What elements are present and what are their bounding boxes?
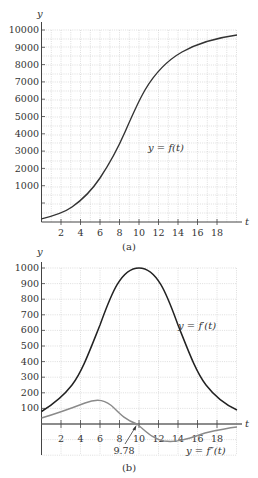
x-tick-label: 8 [116,433,122,444]
x-tick-label: 8 [116,227,122,238]
y-tick-label: 7000 [15,76,39,87]
grid-a [42,30,238,222]
y-tick-label: 1000 [15,180,39,191]
x-tick-label: 14 [172,433,184,444]
x-tick-label: 12 [152,433,164,444]
curve-f-double-prime-label: y = f″(t) [185,445,226,456]
y-tick-label: 400 [21,356,39,367]
x-axis-label-b: t [245,418,250,429]
x-tick-label: 18 [211,227,223,238]
caption-b: (b) [122,462,136,473]
y-tick-label: 900 [21,278,39,289]
y-axis-label-a: y [36,8,43,19]
x-tick-label: 4 [77,433,83,444]
x-tick-labels-a: 2 4 6 8 10 12 14 16 18 [58,227,223,238]
caption-a: (a) [122,241,136,252]
marker-label: 9.78 [113,445,134,456]
chart-a: 10000 9000 8000 7000 6000 5000 4000 3000… [9,8,250,252]
x-tick-label: 14 [172,227,184,238]
y-tick-labels-a: 10000 9000 8000 7000 6000 5000 4000 3000… [9,24,39,191]
x-tick-label: 10 [133,433,145,444]
y-tick-label: 300 [21,371,39,382]
x-axis-label-a: t [245,216,250,227]
x-tick-label: 2 [58,433,64,444]
y-tick-label: 100 [21,402,39,413]
y-tick-label: 800 [21,293,39,304]
arrow-head-icon [133,425,137,431]
x-tick-label: 6 [97,433,103,444]
y-tick-label: 8000 [15,59,39,70]
y-tick-label: 3000 [15,145,39,156]
x-tick-label: 12 [152,227,164,238]
y-axis-label-b: y [36,246,43,257]
x-tick-label: 2 [58,227,64,238]
y-tick-label: 200 [21,387,39,398]
y-tick-label: 10000 [9,24,39,35]
y-tick-label: 5000 [15,111,39,122]
curve-f-label: y = f(t) [147,142,184,153]
figure: 10000 9000 8000 7000 6000 5000 4000 3000… [0,0,258,478]
curve-f-prime-label: y = f′(t) [177,320,216,331]
x-tick-label: 4 [77,227,83,238]
y-tick-label: 700 [21,309,39,320]
y-tick-label: 600 [21,324,39,335]
x-tick-label: 6 [97,227,103,238]
y-tick-label: 6000 [15,93,39,104]
x-tick-label: 16 [191,227,203,238]
chart-b: 1000 900 800 700 600 500 400 300 200 100… [15,246,250,473]
y-tick-label: 9000 [15,42,39,53]
y-tick-label: 500 [21,340,39,351]
y-tick-labels-b: 1000 900 800 700 600 500 400 300 200 100 [15,262,39,413]
y-tick-label: 2000 [15,163,39,174]
x-tick-label: 10 [133,227,145,238]
y-tick-label: 1000 [15,262,39,273]
x-tick-label: 18 [211,433,223,444]
y-tick-label: 4000 [15,128,39,139]
